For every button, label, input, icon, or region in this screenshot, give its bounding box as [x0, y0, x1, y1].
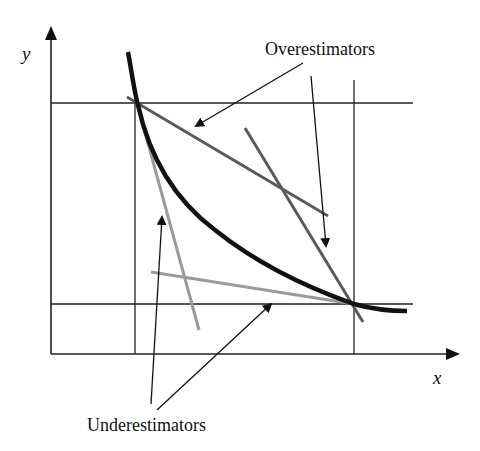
x-axis-label: x: [432, 367, 442, 388]
overestimator-secant-steep: [245, 128, 363, 322]
y-axis-label: y: [20, 43, 31, 64]
axes: [51, 28, 458, 354]
underestimators-label: Underestimators: [87, 415, 206, 435]
overestimators-label: Overestimators: [265, 39, 375, 59]
estimators-diagram: y x Overestimators Underestimators: [0, 0, 480, 451]
overestimator-arrow-2: [311, 76, 326, 246]
underestimator-tangent-right: [151, 272, 354, 304]
annotation-arrows: [151, 63, 326, 410]
underestimator-arrow-1: [151, 217, 162, 404]
underestimator-arrow-2: [157, 304, 271, 410]
overestimator-arrow-1: [196, 63, 303, 126]
underestimator-lines: [137, 103, 354, 330]
